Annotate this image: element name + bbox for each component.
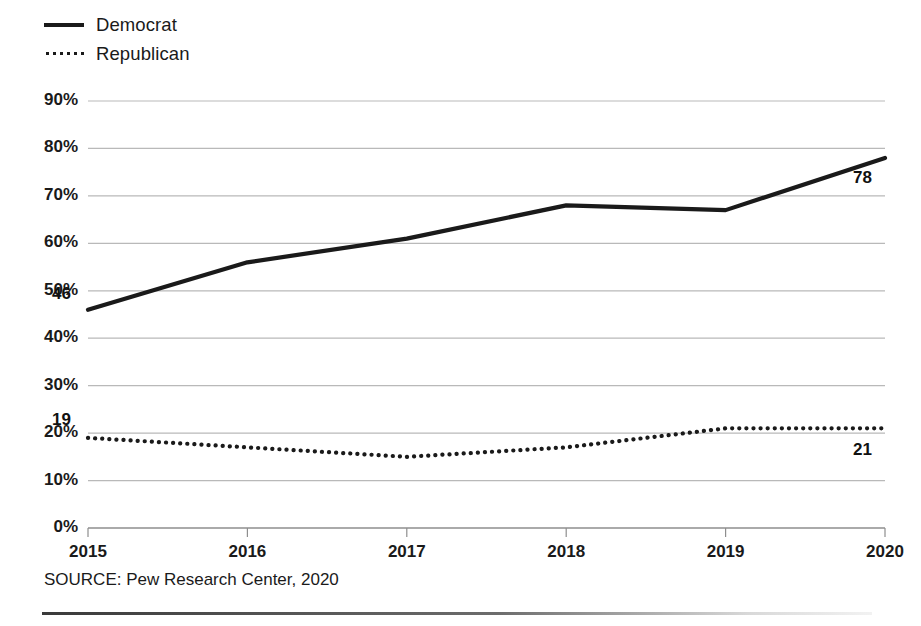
x-axis-tick-label: 2016 [207,542,287,562]
gridlines [88,101,885,528]
series-line-democrat [88,158,885,310]
y-axis-tick-label: 30% [16,375,78,395]
democrat-end-label: 78 [853,168,872,188]
x-axis-ticks [88,528,885,537]
x-axis-tick-label: 2020 [845,542,921,562]
series-lines [88,158,885,457]
chart-canvas [0,0,921,626]
x-axis-tick-label: 2017 [367,542,447,562]
y-axis-tick-label: 90% [16,90,78,110]
chart-page: Democrat Republican 0%10%20%30%40%50%60%… [0,0,921,626]
republican-end-label: 21 [853,440,872,460]
y-axis-tick-label: 70% [16,185,78,205]
y-axis-tick-label: 40% [16,327,78,347]
y-axis-tick-label: 10% [16,470,78,490]
democrat-start-label: 46 [52,284,71,304]
source-note: SOURCE: Pew Research Center, 2020 [44,570,339,590]
x-axis-tick-label: 2018 [526,542,606,562]
y-axis-tick-label: 0% [16,517,78,537]
y-axis-tick-label: 80% [16,137,78,157]
line-chart: 0%10%20%30%40%50%60%70%80%90% 2015201620… [0,0,921,626]
y-axis-tick-label: 60% [16,232,78,252]
republican-start-label: 19 [52,410,71,430]
x-axis-tick-label: 2019 [686,542,766,562]
x-axis-tick-label: 2015 [48,542,128,562]
bottom-divider [42,612,872,615]
